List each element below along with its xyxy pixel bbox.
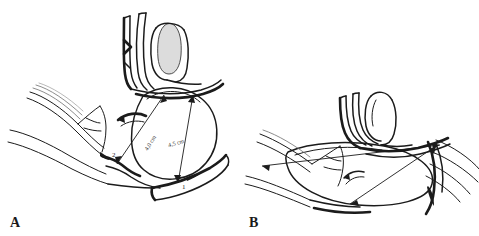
figure-root: 4,0 cm 4,5 cm 2 1 A [0,0,479,236]
marker-label-a-1: 2 [112,152,116,159]
rectum-loop-structure [365,92,396,145]
panel-b-illustration [240,0,479,236]
panel-letter-a: A [10,216,21,230]
panel-letter-b: B [249,216,259,230]
fetal-head-outline [286,143,433,206]
coccyx-blade [152,155,229,200]
pubic-symphysis-outline [8,83,108,184]
sacrum-outline [124,16,137,89]
pelvic-floor-band [100,152,160,188]
direction-curved-arrow [344,171,364,184]
pubic-symphysis-outline [245,130,343,207]
rectum-stippled-structure [151,23,188,82]
panel-b: 3,0 cm 3,5 cm 2 B [240,0,479,236]
marker-label-a-2: 1 [182,184,186,191]
fetal-head-outline [131,88,216,179]
panel-a-illustration [0,0,240,236]
panel-a: 4,0 cm 4,5 cm 2 1 A [0,0,240,236]
